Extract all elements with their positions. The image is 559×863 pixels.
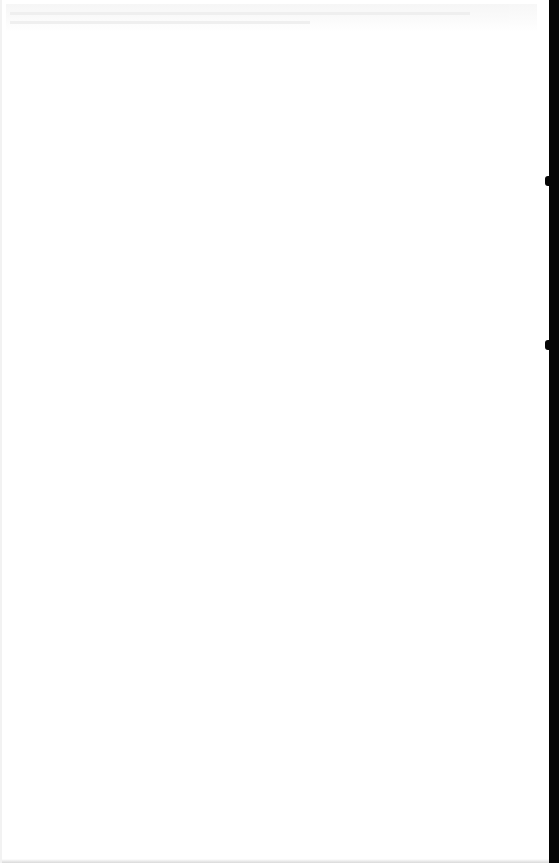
faded-text-line [10, 21, 310, 24]
edge-notch [545, 176, 551, 186]
bottom-edge-shadow [2, 859, 551, 863]
faded-header-strip [6, 4, 537, 32]
right-edge-strip [549, 0, 559, 863]
edge-notch [545, 340, 551, 350]
faded-text-line [10, 12, 470, 15]
blank-page [0, 0, 549, 863]
